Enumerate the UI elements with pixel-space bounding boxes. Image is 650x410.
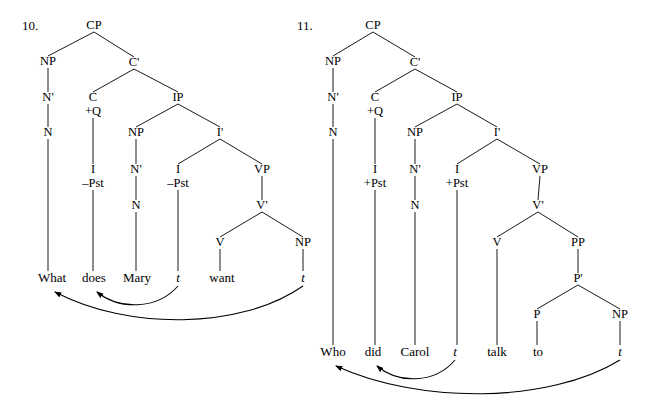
tree-branch [262, 212, 303, 237]
tree-11-node-c-feature: +Q [367, 105, 383, 118]
movement-wh [55, 286, 303, 320]
tree-branch [375, 69, 415, 92]
tree-11-leaf-who: Who [320, 344, 345, 360]
branch-lines [48, 32, 620, 345]
tree-10-leaf-mary: Mary [123, 270, 151, 286]
tree-11-node-i-in-c: I [373, 163, 377, 176]
tree-10-node-n: N [43, 126, 52, 139]
tree-11-node-cbar: C' [410, 56, 421, 69]
tree-branch [538, 176, 540, 200]
tree-10-node-i: I [176, 163, 180, 176]
tree-branch [134, 69, 178, 92]
tree-number-tree-11: 11. [297, 18, 313, 34]
tree-number-tree-10: 10. [22, 18, 38, 34]
tree-10-node-nbar: N' [42, 91, 53, 104]
tree-11-node-p: P [534, 308, 541, 321]
tree-11-node-nbar-subj: N' [409, 163, 420, 176]
tree-11-node-n: N [328, 126, 337, 139]
tree-11-leaf-to: to [533, 344, 543, 360]
tree-11-node-c: C [371, 91, 379, 104]
tree-10-leaf-trace-subject: t [176, 270, 180, 286]
tree-11-node-v: V [492, 236, 501, 249]
movement-i-to-c [377, 360, 455, 379]
tree-11-node-pp: PP [571, 236, 585, 249]
tree-10-node-v: V [215, 236, 224, 249]
tree-10-node-ibar: I' [217, 126, 223, 139]
tree-branch [497, 139, 540, 164]
tree-10-leaf-want: want [209, 270, 234, 286]
tree-branch [578, 285, 620, 309]
tree-11-node-n-subj: N [410, 199, 419, 212]
tree-11-node-vbar: V' [532, 199, 543, 212]
tree-branch [220, 139, 262, 164]
tree-branch [538, 212, 578, 237]
tree-10-node-c: C [89, 91, 97, 104]
tree-11-node-ip: IP [451, 91, 462, 104]
tree-11-node-cp: CP [365, 19, 380, 32]
tree-10-node-np-obj: NP [295, 236, 311, 249]
tree-11-node-i: I [455, 163, 459, 176]
tree-branch [373, 32, 415, 57]
tree-11-leaf-did: did [365, 344, 382, 360]
tree-branch [136, 104, 178, 127]
tree-10-node-nbar-subj: N' [130, 163, 141, 176]
tree-11-node-np-subj: NP [407, 126, 423, 139]
tree-branch [457, 139, 497, 164]
tree-10-node-i-in-c: I [91, 163, 95, 176]
tree-10-node-c-feature: +Q [85, 105, 101, 118]
tree-11-leaf-carol: Carol [401, 344, 430, 360]
tree-branch [497, 212, 538, 237]
tree-11-node-nbar: N' [327, 91, 338, 104]
tree-10-node-ip: IP [172, 91, 183, 104]
tree-10-leaf-what: What [38, 270, 66, 286]
tree-branch [415, 104, 457, 127]
movement-arrows [55, 286, 620, 394]
syntax-tree-figure: 10.CPNPC'N'C+QIPNNPI'I–PstN'I–PstVPNV'VN… [0, 0, 650, 410]
movement-i-to-c [97, 286, 178, 305]
tree-10-node-np-spec: NP [40, 55, 56, 68]
tree-11-node-np-spec: NP [325, 55, 341, 68]
tree-branch [93, 69, 134, 92]
tree-11-node-np-obj: NP [612, 308, 628, 321]
tree-10-node-vp: VP [254, 163, 270, 176]
tree-branch [178, 104, 220, 127]
tree-11-leaf-trace-subject: t [453, 344, 457, 360]
tree-11-node-i-feature: +Pst [446, 177, 468, 190]
tree-branch [333, 32, 373, 56]
tree-branch [94, 32, 134, 57]
tree-10-node-cp: CP [86, 19, 101, 32]
tree-11-leaf-talk: talk [487, 344, 507, 360]
tree-11-leaf-trace-object: t [618, 344, 622, 360]
tree-branch [48, 32, 94, 56]
tree-branch [220, 212, 262, 237]
tree-branch [415, 69, 457, 92]
tree-10-node-n-subj: N [131, 199, 140, 212]
tree-branch [457, 104, 497, 127]
movement-wh [336, 360, 620, 394]
tree-10-node-np-subj: NP [128, 126, 144, 139]
tree-branch [537, 285, 578, 309]
tree-10-node-vbar: V' [256, 199, 267, 212]
tree-11-node-pbar: P' [573, 272, 582, 285]
tree-10-leaf-trace-object: t [301, 270, 305, 286]
tree-10-node-cbar: C' [129, 56, 140, 69]
tree-11-node-vp: VP [532, 163, 548, 176]
tree-branch [178, 139, 220, 164]
tree-10-node-i-in-c-feature: –Pst [82, 177, 104, 190]
tree-10-node-i-feature: –Pst [167, 177, 189, 190]
tree-10-leaf-does: does [82, 270, 106, 286]
tree-11-node-i-in-c-feature: +Pst [364, 177, 386, 190]
tree-11-node-ibar: I' [494, 126, 500, 139]
